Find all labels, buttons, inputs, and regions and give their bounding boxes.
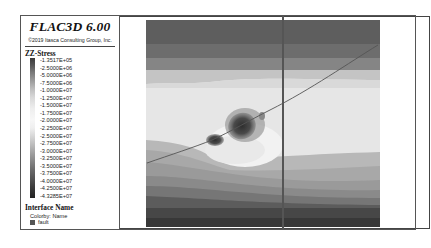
legend-separator (119, 16, 120, 229)
contour-plot[interactable] (0, 0, 431, 248)
contour-bands (146, 20, 380, 227)
